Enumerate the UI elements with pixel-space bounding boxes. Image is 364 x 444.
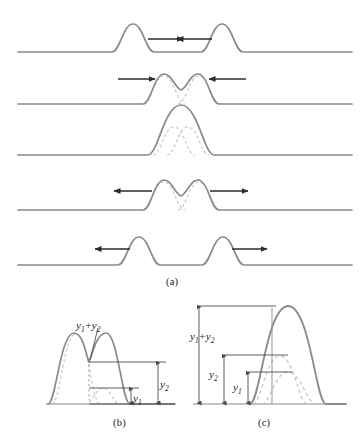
string-curve-row-3 <box>18 105 352 155</box>
panel-b-sum-y2-sub: 2 <box>97 325 101 334</box>
panel-c <box>193 306 346 404</box>
panel-c-y1-sub: 1 <box>238 387 242 396</box>
panel-a-row-3 <box>18 105 352 155</box>
wave-superposition-figure: (a) (b) (c) y1+y2 y2 y1 y1+y2 y2 y1 <box>0 0 364 444</box>
panel-a-row-5 <box>18 237 352 265</box>
dashed-component-right-row-3 <box>167 127 209 155</box>
panel-b-label-y1-plus-y2: y1+y2 <box>76 319 101 334</box>
string-curve-row-5 <box>18 237 352 265</box>
panel-c-label-y1: y1 <box>233 381 242 396</box>
panel-b-label-y2: y2 <box>160 378 169 393</box>
panel-b-resultant-curve <box>48 333 175 404</box>
panel-c-dashed-component-right <box>262 372 316 404</box>
dashed-component-left-row-4 <box>143 182 185 210</box>
panel-b-y2-sub: 2 <box>165 384 169 393</box>
panel-a-row-4 <box>18 180 352 210</box>
panel-c-caption: (c) <box>258 417 270 428</box>
panel-b-sum-operator: + <box>85 319 92 331</box>
panel-c-y2-sub: 2 <box>214 374 218 383</box>
string-curve-row-1 <box>18 24 352 52</box>
string-curve-row-4 <box>18 180 352 210</box>
panel-b-caption: (b) <box>113 417 126 428</box>
panel-c-sum-y2-sub: 2 <box>211 336 215 345</box>
dashed-component-left-row-3 <box>153 127 195 155</box>
panel-b-label-y1: y1 <box>133 392 142 407</box>
panel-c-label-y2: y2 <box>209 368 218 383</box>
string-curve-row-2 <box>18 74 352 104</box>
panel-a-caption: (a) <box>166 276 178 287</box>
figure-canvas <box>0 0 364 444</box>
panel-c-label-y1-plus-y2: y1+y2 <box>190 330 215 345</box>
panel-a-row-2 <box>18 74 352 104</box>
panel-a <box>18 24 352 265</box>
panel-c-sum-operator: + <box>199 330 206 342</box>
dashed-component-left-row-2 <box>143 76 185 104</box>
panel-b-y1-sub: 1 <box>138 398 142 407</box>
panel-a-row-1 <box>18 24 352 52</box>
panel-b <box>46 328 175 404</box>
panel-c-dashed-component-left <box>253 356 307 404</box>
